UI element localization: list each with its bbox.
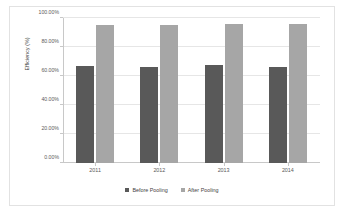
bar-group: 2013 bbox=[192, 18, 256, 163]
bar-before-pooling-2014[interactable] bbox=[269, 67, 287, 163]
y-axis-title: Efficiency (%) bbox=[24, 19, 30, 89]
bar-after-pooling-2011[interactable] bbox=[96, 25, 114, 163]
x-tick-label-2011: 2011 bbox=[63, 167, 127, 173]
bar-before-pooling-2011[interactable] bbox=[76, 66, 94, 163]
chart-container: Efficiency (%) 0.00%20.00%40.00%60.00%80… bbox=[9, 6, 335, 206]
bar-groups: 2011201220132014 bbox=[63, 18, 320, 163]
y-tick-label: 60.00% bbox=[41, 67, 59, 73]
bar-after-pooling-2013[interactable] bbox=[225, 24, 243, 163]
y-tick-label: 0.00% bbox=[44, 154, 59, 160]
y-tick-label: 20.00% bbox=[41, 125, 59, 131]
bar-after-pooling-2012[interactable] bbox=[160, 25, 178, 163]
legend-swatch-icon bbox=[125, 188, 129, 192]
x-tick-mark bbox=[224, 163, 225, 166]
plot-area: 0.00%20.00%40.00%60.00%80.00%100.00% 201… bbox=[63, 18, 320, 163]
legend-label: Before Pooling bbox=[132, 187, 167, 193]
chart-legend: Before PoolingAfter Pooling bbox=[10, 187, 334, 193]
x-tick-label-2014: 2014 bbox=[256, 167, 320, 173]
bar-group: 2012 bbox=[127, 18, 191, 163]
x-tick-mark bbox=[159, 163, 160, 166]
bar-after-pooling-2014[interactable] bbox=[289, 24, 307, 163]
legend-item-after-pooling[interactable]: After Pooling bbox=[181, 187, 219, 193]
x-tick-mark bbox=[288, 163, 289, 166]
y-tick-label: 40.00% bbox=[41, 96, 59, 102]
legend-label: After Pooling bbox=[188, 187, 219, 193]
x-tick-mark bbox=[95, 163, 96, 166]
y-tick-label: 80.00% bbox=[41, 38, 59, 44]
bar-before-pooling-2013[interactable] bbox=[205, 65, 223, 163]
y-tick-label: 100.00% bbox=[39, 9, 59, 15]
bar-group: 2011 bbox=[63, 18, 127, 163]
legend-item-before-pooling[interactable]: Before Pooling bbox=[125, 187, 167, 193]
x-tick-label-2012: 2012 bbox=[127, 167, 191, 173]
legend-swatch-icon bbox=[181, 188, 185, 192]
x-tick-label-2013: 2013 bbox=[192, 167, 256, 173]
bar-group: 2014 bbox=[256, 18, 320, 163]
bar-before-pooling-2012[interactable] bbox=[140, 67, 158, 163]
